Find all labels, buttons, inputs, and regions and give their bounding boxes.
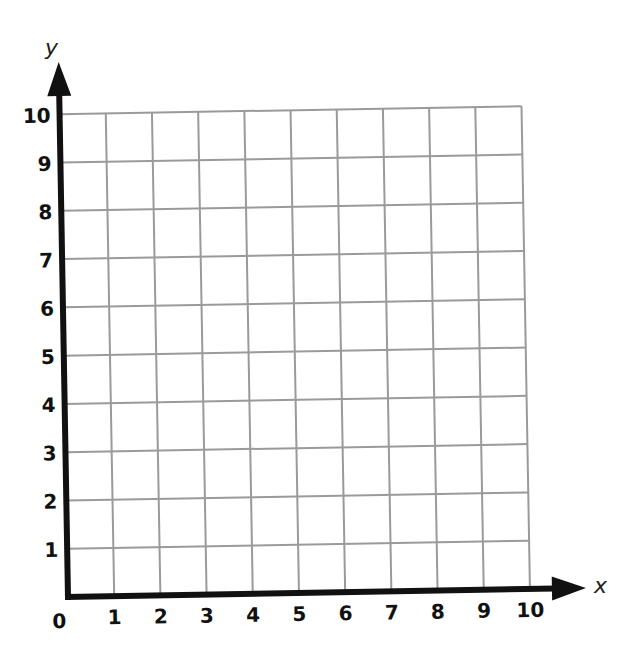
- y-tick-labels: 12345678910: [23, 103, 59, 562]
- x-tick-label: 8: [431, 599, 445, 623]
- y-tick-label: 10: [23, 103, 51, 127]
- x-tick-label: 7: [385, 600, 399, 624]
- x-tick-label: 5: [292, 602, 306, 626]
- y-tick-label: 2: [43, 490, 57, 514]
- x-tick-labels: 12345678910: [107, 598, 544, 630]
- x-tick-label: 3: [200, 603, 214, 627]
- x-tick-label: 9: [477, 599, 491, 623]
- origin-label: 0: [52, 609, 66, 633]
- x-axis: [65, 576, 586, 609]
- y-tick-label: 6: [40, 297, 54, 321]
- y-tick-label: 1: [44, 538, 58, 562]
- grid-lines: [60, 106, 530, 597]
- y-tick-label: 8: [38, 200, 52, 224]
- x-tick-label: 1: [107, 605, 121, 629]
- x-tick-label: 4: [246, 603, 260, 627]
- y-axis-label: y: [44, 35, 59, 60]
- y-tick-label: 5: [41, 345, 55, 369]
- x-tick-label: 10: [516, 598, 544, 622]
- y-axis: [47, 62, 80, 600]
- x-tick-label: 6: [338, 601, 352, 625]
- y-tick-label: 3: [42, 441, 56, 465]
- x-tick-label: 2: [154, 604, 168, 628]
- x-axis-label: x: [593, 573, 608, 598]
- coordinate-grid: 12345678910 12345678910 0 y x: [0, 0, 631, 650]
- y-tick-label: 9: [37, 152, 51, 176]
- y-tick-label: 7: [39, 248, 53, 272]
- y-arrow-icon: [47, 62, 72, 96]
- y-tick-label: 4: [42, 393, 56, 417]
- x-arrow-icon: [552, 576, 586, 601]
